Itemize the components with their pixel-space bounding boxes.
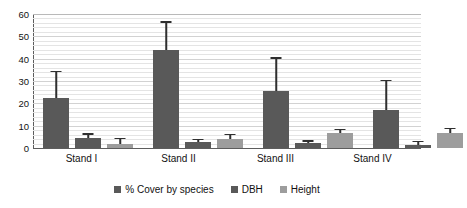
error-bar [275,59,277,91]
error-bar-cap [115,138,126,140]
error-bar-cap [445,128,456,130]
bar[interactable] [153,50,179,148]
bar-group [143,14,253,148]
legend-label: % Cover by species [125,184,213,195]
x-axis-category-label: Stand III [227,152,324,168]
error-bar [307,142,309,143]
error-bar-cap [83,133,94,135]
error-bar [229,135,231,139]
x-axis-category-label: Stand II [130,152,227,168]
bar-groups [33,14,421,148]
error-bar [385,81,387,110]
bar[interactable] [373,110,399,148]
error-bar-cap [225,134,236,136]
error-bar [197,140,199,142]
legend-item[interactable]: % Cover by species [114,184,213,195]
bar[interactable] [327,133,353,148]
bar[interactable] [263,91,289,148]
error-bar [119,139,121,144]
bar[interactable] [295,143,321,148]
bar[interactable] [107,144,133,148]
legend-item[interactable]: Height [280,184,320,195]
error-bar-cap [161,21,172,23]
y-axis-tick-labels: 6050403020100 [0,14,29,148]
y-axis-tick-label: 60 [18,10,29,19]
error-bar-cap [193,139,204,141]
legend-label: DBH [242,184,263,195]
y-axis-tick-label: 20 [18,99,29,108]
bar[interactable] [43,98,69,148]
bar-slot [437,14,463,148]
bar-slot [75,14,101,148]
y-axis-tick-label: 40 [18,55,29,64]
bar-slot [43,14,69,148]
error-bar [165,23,167,50]
error-bar-cap [271,57,282,59]
x-axis-line [33,148,421,149]
chart-legend: % Cover by speciesDBHHeight [0,180,434,198]
bar-group [363,14,467,148]
bar-slot [263,14,289,148]
plot-area [33,14,421,148]
error-bar [55,72,57,98]
bar[interactable] [437,133,463,148]
error-bar-cap [335,129,346,131]
bar-slot [107,14,133,148]
error-bar [87,135,89,138]
legend-swatch-icon [280,186,287,193]
bar-slot [185,14,211,148]
y-axis-tick-label: 50 [18,32,29,41]
bar-group [33,14,143,148]
bar[interactable] [405,145,431,148]
bar[interactable] [217,139,243,148]
x-axis-category-label: Stand I [33,152,130,168]
error-bar-cap [413,141,424,143]
error-bar [449,129,451,133]
error-bar [417,142,419,144]
legend-swatch-icon [114,186,121,193]
legend-label: Height [291,184,320,195]
x-axis-category-label: Stand IV [324,152,421,168]
legend-item[interactable]: DBH [231,184,263,195]
error-bar [339,130,341,133]
x-axis-category-labels: Stand IStand IIStand IIIStand IV [33,152,421,168]
error-bar-cap [303,140,314,142]
bar-slot [217,14,243,148]
bar-slot [405,14,431,148]
bar-group [253,14,363,148]
error-bar-cap [51,71,62,73]
error-bar-cap [381,80,392,82]
bar-slot [153,14,179,148]
y-axis-tick-label: 10 [18,122,29,131]
legend-swatch-icon [231,186,238,193]
y-axis-tick-label: 0 [24,144,29,153]
bar-slot [295,14,321,148]
bar-slot [373,14,399,148]
y-axis-tick-label: 30 [18,77,29,86]
bar[interactable] [185,142,211,148]
bar-slot [327,14,353,148]
bar[interactable] [75,138,101,148]
